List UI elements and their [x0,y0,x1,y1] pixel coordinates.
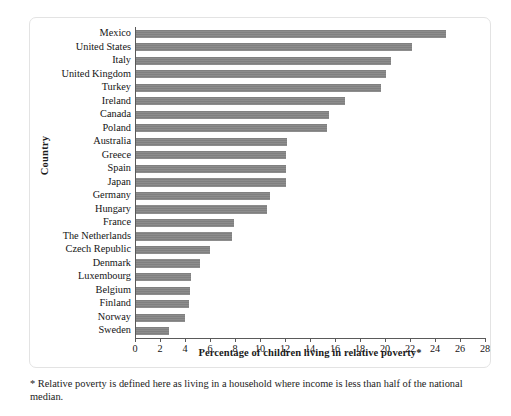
bar [136,314,185,322]
bar-row: Czech Republic [135,243,485,257]
bar [136,287,190,295]
chart-page: Country MexicoUnited StatesItalyUnited K… [0,0,511,416]
bar [136,232,232,240]
category-label: Ireland [102,94,131,107]
x-tick [360,338,361,342]
bar-row: Luxembourg [135,270,485,284]
bar-row: The Netherlands [135,230,485,244]
category-label: Turkey [102,80,131,93]
bar-row: Sweden [135,324,485,338]
bar-row: Turkey [135,81,485,95]
bar-row: Greece [135,149,485,163]
x-tick [410,338,411,342]
bar-row: Spain [135,162,485,176]
bar [136,124,327,132]
x-tick [335,338,336,342]
category-label: Denmark [93,256,131,269]
category-label: Italy [112,53,131,66]
bar-row: Italy [135,54,485,68]
category-label: United States [76,40,131,53]
x-tick [285,338,286,342]
x-tick [235,338,236,342]
category-label: United Kingdom [62,67,132,80]
x-tick [260,338,261,342]
bar [136,57,391,65]
y-axis-title: Country [39,111,50,201]
category-label: Mexico [100,26,131,39]
category-label: Spain [108,161,131,174]
bar [136,70,386,78]
bar [136,192,270,200]
category-label: Greece [102,148,131,161]
category-label: Poland [102,121,131,134]
category-label: France [103,215,131,228]
bar-row: Denmark [135,257,485,271]
x-tick [160,338,161,342]
bar [136,246,210,254]
bar [136,178,286,186]
x-tick [135,338,136,342]
bar-chart: Country MexicoUnited StatesItalyUnited K… [0,0,511,416]
bar [136,30,446,38]
x-tick [210,338,211,342]
bar [136,165,286,173]
bar [136,138,287,146]
bar-row: Poland [135,122,485,136]
bar [136,111,329,119]
bar-row: Belgium [135,284,485,298]
bar-row: Finland [135,297,485,311]
bar-row: Australia [135,135,485,149]
x-tick [310,338,311,342]
footnote: * Relative poverty is defined here as li… [30,377,482,404]
bar [136,219,234,227]
bar-row: United States [135,41,485,55]
bar [136,84,381,92]
bar-row: Ireland [135,95,485,109]
bar [136,205,267,213]
bar [136,300,189,308]
bar-row: United Kingdom [135,68,485,82]
bar [136,97,345,105]
category-label: Hungary [95,202,131,215]
category-label: Germany [93,188,131,201]
category-label: Belgium [96,283,131,296]
category-label: Japan [108,175,131,188]
category-label: Norway [98,310,131,323]
category-label: Australia [93,134,131,147]
bar-row: Norway [135,311,485,325]
x-axis-title: Percentage of children living in relativ… [135,347,485,358]
x-tick [435,338,436,342]
bar [136,273,191,281]
bar-row: Hungary [135,203,485,217]
bar [136,259,200,267]
bar-row: France [135,216,485,230]
category-label: Finland [100,296,131,309]
bar-row: Germany [135,189,485,203]
plot-area: MexicoUnited StatesItalyUnited KingdomTu… [135,27,485,338]
x-tick [485,338,486,342]
x-tick [385,338,386,342]
bar [136,43,412,51]
bar [136,327,169,335]
x-tick [460,338,461,342]
category-label: Czech Republic [66,242,131,255]
category-label: Sweden [98,323,131,336]
bar-row: Canada [135,108,485,122]
bar-row: Japan [135,176,485,190]
bar-row: Mexico [135,27,485,41]
bar-rows: MexicoUnited StatesItalyUnited KingdomTu… [135,27,485,338]
bar [136,151,286,159]
category-label: The Netherlands [63,229,131,242]
x-tick [185,338,186,342]
category-label: Luxembourg [78,269,131,282]
category-label: Canada [100,107,131,120]
